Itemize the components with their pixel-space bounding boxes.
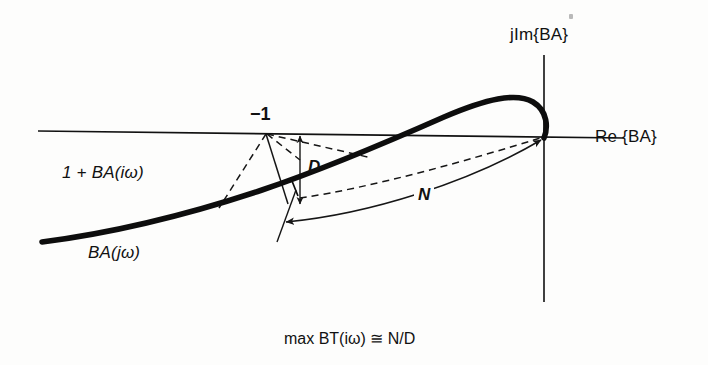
return-difference-label: 1 + BA(iω) [62,164,144,181]
imaginary-axis-label: jIm{BA} [510,26,568,43]
critical-point-label: −1 [250,105,271,123]
open-loop-curve-label: BA(jω) [88,244,140,261]
distance-n-dimension [286,140,541,222]
nyquist-figure: Re {BA} jIm{BA} −1 1 + BA(iω) BA(jω) D N… [0,0,708,365]
scan-speck [569,14,573,19]
nyquist-diagram-canvas [0,0,708,365]
real-axis-label: Re {BA} [595,128,657,145]
distance-d-label: D [308,158,320,175]
real-axis-line [38,131,624,138]
perpendicular-segment [266,134,288,204]
figure-caption: max BT(iω) ≅ N/D [284,331,415,347]
distance-n-label: N [414,186,434,203]
